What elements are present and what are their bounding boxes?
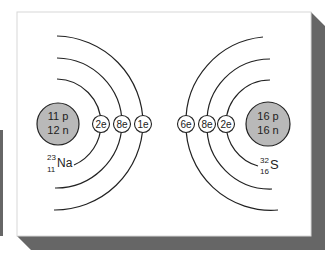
electron-label: 8e [201,119,213,130]
atomic-number-sulfur: 16 [260,167,269,176]
symbol-sulfur: S [270,157,279,172]
electron-label: 6e [180,119,192,130]
electron-badge: 2e [218,116,235,133]
electron-label: 8e [116,119,128,130]
electron-badge: 8e [114,116,131,133]
electron-label: 2e [220,119,232,130]
electron-label: 2e [95,119,107,130]
mass-number-sodium: 23 [47,153,56,162]
electron-badge: 6e [178,116,195,133]
symbol-sodium: Na [57,156,73,170]
nucleus-protons-sulfur: 16 p [257,110,278,122]
electron-badge: 8e [199,116,216,133]
diagram-canvas: 11 p 12 n 2e 8e 1e 23 11 Na 16 p 16 n 2e… [0,0,336,255]
electron-badge: 1e [135,116,152,133]
atomic-number-sodium: 11 [47,165,56,174]
nucleus-neutrons-sodium: 12 n [47,124,68,136]
electron-label: 1e [137,119,149,130]
electron-badge: 2e [93,116,110,133]
left-shadow-strip [0,130,3,236]
nucleus-protons-sodium: 11 p [48,110,69,122]
mass-number-sulfur: 32 [260,156,269,165]
nucleus-neutrons-sulfur: 16 n [257,124,278,136]
